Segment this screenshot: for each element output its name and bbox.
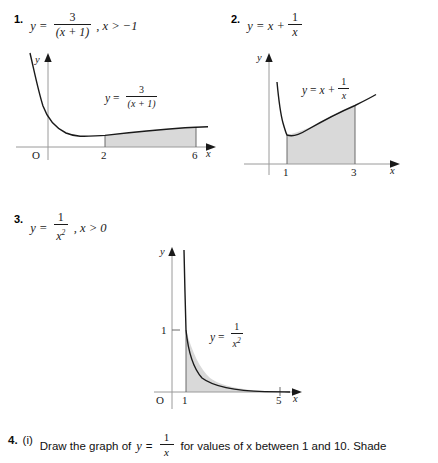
question-4-denominator: x: [162, 446, 171, 459]
problem-2-numerator: 1: [290, 11, 300, 23]
problem-2-y-arrow: [265, 53, 272, 62]
curve-label-denominator: x: [340, 90, 348, 101]
problem-1-origin-label: O: [32, 149, 40, 161]
problem-2-y-axis-label: y: [257, 52, 262, 63]
problem-1-denominator: (x + 1): [54, 26, 91, 39]
problem-2-x-axis-label: x: [390, 165, 395, 176]
problem-1-equals: =: [40, 19, 47, 33]
fraction-bar: [338, 88, 349, 89]
problem-2-x-tick-label-3: 3: [351, 166, 357, 178]
problem-2-equation: y = x + 1 x: [247, 12, 305, 40]
problem-1-equation: y = 3 (x + 1) , x > −1: [30, 12, 137, 40]
curve-label-lhs: y: [210, 331, 215, 343]
problem-2-graph: y x 1 3 y = x + 1 x: [230, 50, 430, 175]
problem-3-denominator-wrap: x2: [54, 226, 67, 243]
problem-2-equals: =: [257, 19, 264, 33]
question-4-fraction: 1 x: [160, 431, 174, 459]
question-4-text-before: Draw the graph of: [40, 438, 131, 454]
curve-label-equals: =: [310, 84, 317, 96]
fraction-bar: [160, 444, 174, 445]
worksheet-page: 1. y = 3 (x + 1) , x > −1: [0, 0, 438, 463]
fraction-bar: [54, 224, 68, 225]
problem-3-x-axis-label: x: [293, 393, 298, 404]
problem-2-plot: [230, 50, 430, 175]
problem-3-header: 3. y = 1 x2 , x > 0: [14, 212, 107, 244]
curve-label-lhs: y: [302, 84, 307, 96]
problem-1-curve-label: y = 3 (x + 1): [105, 86, 160, 110]
question-4-number: 4.: [8, 432, 18, 448]
problem-2-denominator: x: [290, 26, 299, 39]
problem-3-curve-label: y = 1 x2: [210, 323, 246, 350]
curve-label-fraction: 3 (x + 1): [126, 85, 158, 109]
problem-3-equation: y = 1 x2 , x > 0: [30, 212, 106, 244]
problem-1-y-axis-label: y: [35, 54, 40, 65]
question-4: 4. (i) Draw the graph of y = 1 x for val…: [8, 432, 438, 460]
problem-1-x-tick-label-6: 6: [192, 149, 198, 161]
curve-label-numerator: 1: [339, 77, 348, 87]
problem-1-x-tick-label-2: 2: [101, 149, 107, 161]
question-4-text-after: for values of x between 1 and 10. Shade: [181, 438, 387, 454]
curve-label-lhs: y: [105, 92, 110, 104]
problem-3-y-arrow: [168, 247, 175, 256]
fraction-bar: [126, 96, 158, 97]
question-4-equals: =: [146, 438, 153, 454]
problem-3-y-axis-label: y: [160, 246, 165, 257]
curve-label-denominator-exponent: 2: [237, 336, 241, 345]
problem-1-fraction: 3 (x + 1): [54, 11, 91, 39]
problem-3-x-tick-label-1: 1: [182, 394, 188, 406]
problem-3-number: 3.: [14, 212, 23, 226]
problem-3-y-tick-label-1: 1: [161, 324, 167, 336]
question-4-body: Draw the graph of y = 1 x for values of …: [40, 432, 387, 460]
problem-2-fraction: 1 x: [288, 11, 302, 39]
problem-1-header: 1. y = 3 (x + 1) , x > −1: [14, 12, 137, 40]
curve-label-fraction: 1 x: [338, 77, 349, 101]
curve-label-equals: =: [113, 92, 120, 104]
problem-3-denominator-exponent: 2: [62, 228, 66, 237]
question-4-numerator: 1: [162, 431, 172, 443]
problem-1-domain: , x > −1: [96, 19, 137, 33]
curve-label-fraction: 1 x2: [231, 322, 243, 349]
curve-label-denominator-wrap: x2: [231, 335, 243, 349]
problem-1-numerator: 3: [68, 11, 78, 23]
problem-2-number: 2.: [231, 12, 240, 26]
curve-label-denominator: (x + 1): [126, 98, 158, 109]
problem-1-graph: y x O 2 6 y = 3 (x + 1): [10, 50, 220, 160]
problem-1-lhs: y: [30, 19, 36, 33]
problem-2-curve-label: y = x + 1 x: [302, 78, 352, 102]
problem-3-fraction: 1 x2: [54, 211, 68, 243]
question-4-roman: (i): [23, 432, 33, 448]
curve-label-term: x +: [320, 84, 336, 96]
problem-2-term: x +: [268, 19, 285, 33]
fraction-bar: [231, 333, 243, 334]
problem-3-lhs: y: [30, 221, 36, 235]
problem-2-x-tick-label-1: 1: [283, 166, 289, 178]
curve-label-numerator: 3: [137, 85, 146, 95]
curve-label-numerator: 1: [232, 322, 241, 332]
question-4-lhs: y: [136, 438, 142, 454]
curve-label-equals: =: [218, 331, 225, 343]
problem-3-x-tick-label-5: 5: [276, 394, 282, 406]
problem-3-numerator: 1: [56, 211, 66, 223]
problem-1-x-axis-label: x: [206, 148, 211, 159]
problem-2-header: 2. y = x + 1 x: [231, 12, 305, 40]
problem-3-equals: =: [40, 221, 47, 235]
problem-1-y-arrow: [44, 53, 51, 62]
problem-3-graph: y x O 1 5 1 y = 1 x2: [140, 244, 340, 409]
problem-3-domain: , x > 0: [74, 221, 107, 235]
problem-2-lhs: y: [247, 19, 253, 33]
problem-1-number: 1.: [14, 12, 23, 26]
problem-3-origin-label: O: [156, 394, 164, 406]
